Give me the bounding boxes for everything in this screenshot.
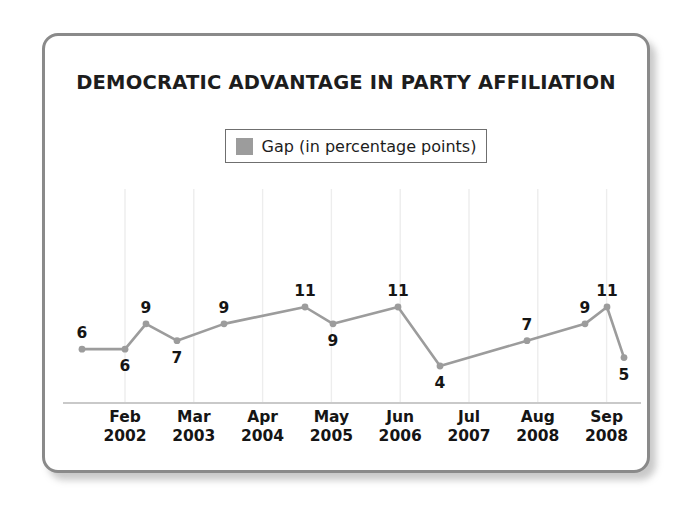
data-point-marker: [302, 304, 309, 311]
x-axis-tick: Aug2008: [506, 408, 570, 446]
x-axis-tick: Jul2007: [437, 408, 501, 446]
data-point-label: 9: [141, 299, 152, 317]
x-axis-tick-year: 2005: [299, 427, 363, 446]
data-point-marker: [174, 337, 181, 344]
x-axis-tick-year: 2007: [437, 427, 501, 446]
data-point-label: 11: [596, 282, 618, 300]
data-point-marker: [621, 354, 628, 361]
data-point-label: 6: [120, 357, 131, 375]
data-point-label: 9: [328, 332, 339, 350]
x-axis-tick-labels: Feb2002Mar2003Apr2004May2005Jun2006Jul20…: [45, 408, 653, 468]
data-point-label: 6: [77, 324, 88, 342]
data-point-marker: [330, 320, 337, 327]
data-point-label: 5: [619, 366, 630, 384]
x-axis-tick-month: Mar: [162, 408, 226, 427]
data-point-marker: [437, 363, 444, 370]
data-point-marker: [143, 320, 150, 327]
x-axis-tick-year: 2002: [93, 427, 157, 446]
data-point-marker: [79, 346, 86, 353]
chart-card: DEMOCRATIC ADVANTAGE IN PARTY AFFILIATIO…: [42, 33, 650, 473]
data-point-label: 4: [435, 374, 446, 392]
series-value-labels: 6697911911479115: [77, 282, 630, 392]
x-axis-tick-month: Jul: [437, 408, 501, 427]
x-axis-tick-month: Apr: [231, 408, 295, 427]
data-point-marker: [221, 320, 228, 327]
x-axis-tick-month: Aug: [506, 408, 570, 427]
x-axis-tick: Jun2006: [368, 408, 432, 446]
x-axis-tick-year: 2003: [162, 427, 226, 446]
gridlines: [125, 189, 607, 403]
data-point-marker: [395, 304, 402, 311]
data-point-marker: [582, 320, 589, 327]
x-axis-tick: May2005: [299, 408, 363, 446]
data-point-label: 7: [522, 316, 533, 334]
series-line-gap: [82, 307, 624, 366]
data-point-label: 9: [580, 299, 591, 317]
data-point-marker: [122, 346, 129, 353]
x-axis-tick-month: Feb: [93, 408, 157, 427]
x-axis-tick: Mar2003: [162, 408, 226, 446]
data-point-label: 11: [294, 282, 316, 300]
x-axis-tick-month: Sep: [575, 408, 639, 427]
x-axis-tick: Sep2008: [575, 408, 639, 446]
x-axis-tick-month: May: [299, 408, 363, 427]
x-axis-tick: Feb2002: [93, 408, 157, 446]
x-axis-tick-year: 2008: [575, 427, 639, 446]
x-axis-tick-year: 2004: [231, 427, 295, 446]
data-point-marker: [604, 304, 611, 311]
data-point-label: 7: [172, 349, 183, 367]
x-axis-tick-year: 2006: [368, 427, 432, 446]
data-point-marker: [524, 337, 531, 344]
x-axis-tick-year: 2008: [506, 427, 570, 446]
x-axis-tick: Apr2004: [231, 408, 295, 446]
data-point-label: 9: [219, 299, 230, 317]
data-point-label: 11: [387, 282, 409, 300]
x-axis-tick-month: Jun: [368, 408, 432, 427]
